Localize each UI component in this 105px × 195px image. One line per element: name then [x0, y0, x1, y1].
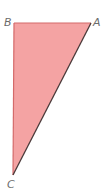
- triangle-diagram: B A C: [0, 0, 105, 195]
- vertex-label-b: B: [4, 16, 12, 29]
- vertex-label-c: C: [7, 178, 15, 191]
- vertex-label-a: A: [92, 16, 101, 29]
